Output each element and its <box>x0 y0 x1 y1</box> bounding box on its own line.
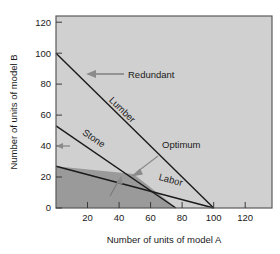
chart-container: 0 20 40 60 80 100 120 20 40 60 80 100 12… <box>0 0 280 254</box>
y-tick-label-0: 0 <box>46 202 51 213</box>
x-tick-label-40: 40 <box>114 212 125 223</box>
redundant-label: Redundant <box>128 69 175 80</box>
x-tick-label-60: 60 <box>145 212 156 223</box>
x-tick-label-20: 20 <box>82 212 93 223</box>
y-tick-label-100: 100 <box>35 48 51 59</box>
linear-programming-chart: 0 20 40 60 80 100 120 20 40 60 80 100 12… <box>0 0 280 254</box>
x-axis-title: Number of units of model A <box>107 234 222 245</box>
y-tick-label-20: 20 <box>40 171 51 182</box>
optimum-label: Optimum <box>162 139 201 150</box>
y-tick-label-80: 80 <box>40 78 51 89</box>
x-tick-label-100: 100 <box>206 212 222 223</box>
y-tick-label-60: 60 <box>40 109 51 120</box>
y-axis-title: Number of units of model B <box>8 54 19 169</box>
x-tick-label-80: 80 <box>177 212 188 223</box>
x-tick-label-120: 120 <box>237 212 253 223</box>
y-tick-label-120: 120 <box>35 17 51 28</box>
y-tick-label-40: 40 <box>40 140 51 151</box>
